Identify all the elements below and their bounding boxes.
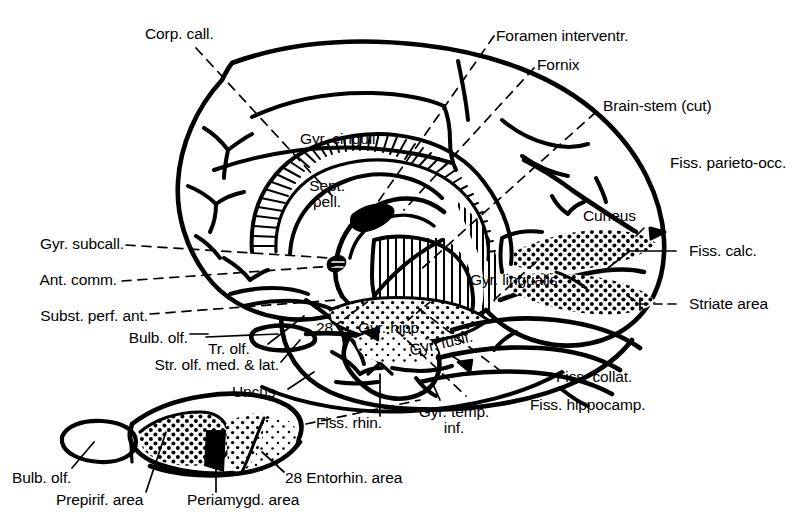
label-inset-bulb-olf: Bulb. olf. <box>12 470 71 486</box>
label-gyr-temp-inf: Gyr. temp. inf. <box>410 404 498 435</box>
label-fornix: Fornix <box>537 57 579 73</box>
label-corp-call: Corp. call. <box>145 26 214 42</box>
sulcus-frontal-branch-3 <box>196 236 220 258</box>
label-uncus: Uncus <box>232 384 275 400</box>
sulcus-superior-frontal <box>252 93 444 117</box>
label-gyr-temp-line1: Gyr. temp. <box>410 404 498 420</box>
label-brain-stem-cut: Brain-stem (cut) <box>603 98 712 114</box>
label-fiss-hippocamp: Fiss. hippocamp. <box>530 397 646 413</box>
label-gyr-hipp: Gyr. hipp. <box>358 320 423 336</box>
inset-periamygdaloid <box>204 430 226 472</box>
sulcus-frontal-branch-2 <box>188 186 244 232</box>
leader-bulb-olf-2 <box>206 334 278 337</box>
thalamus-diagonal-edge <box>374 240 442 296</box>
interthalamic-mark <box>327 255 347 272</box>
inset-bulb-olf <box>62 421 136 462</box>
inset-inner-divider <box>130 428 132 462</box>
label-fiss-calc: Fiss. calc. <box>689 243 757 259</box>
sulcus-frontal-branch-1 <box>204 128 252 178</box>
label-fiss-parieto-occ: Fiss. parieto-occ. <box>670 155 786 171</box>
foramen-interventriculare <box>350 203 395 232</box>
label-fiss-collat: Fiss. collat. <box>556 369 632 385</box>
label-foramen-interventr: Foramen interventr. <box>496 28 629 44</box>
label-str-olf-med-lat: Str. olf. med. & lat. <box>0 357 279 373</box>
label-inset-prepirif-area: Prepirif. area <box>56 492 143 508</box>
label-bulb-olf-main: Bulb. olf. <box>0 330 188 346</box>
label-inset-periamygd-area: Periamygd. area <box>187 492 299 508</box>
label-tr-olf: Tr. olf. <box>208 341 250 357</box>
label-gyr-cinguli: Gyr. cinguli <box>300 131 375 147</box>
sulcus-parietal-1 <box>502 120 588 147</box>
label-inset-entorhin-area: 28 Entorhin. area <box>285 470 402 486</box>
sulcus-occipital-branch-1 <box>552 196 584 214</box>
label-cuneus: Cuneus <box>583 208 636 224</box>
label-subst-perf-ant: Subst. perf. ant. <box>0 308 148 324</box>
sulcus-temporal-2 <box>336 382 378 384</box>
leader-ant-comm <box>122 266 334 281</box>
sulcus-central-marginal <box>458 61 468 120</box>
label-sept-pell-line2: pell. <box>301 194 353 210</box>
sulcus-occipital-branch-2 <box>596 178 606 202</box>
label-striate-area: Striate area <box>689 296 768 312</box>
label-gyr-temp-line2: inf. <box>410 420 498 436</box>
inset-olfactory-region <box>62 394 302 492</box>
leader-foramen <box>364 36 494 222</box>
label-sept-pell-line1: Sept. <box>301 178 353 194</box>
sulcus-rostral <box>230 288 308 294</box>
brain-diagram-svg <box>0 0 794 526</box>
label-sept-pell: Sept. pell. <box>301 178 353 209</box>
leader-gyr-subcall <box>126 245 330 258</box>
brain-anatomy-figure: Corp. call. Foramen interventr. Fornix B… <box>0 0 794 526</box>
label-gyr-subcall: Gyr. subcall. <box>0 236 124 252</box>
label-gyr-lingualis: Gyr. lingualis <box>470 272 557 288</box>
fissura-hippocampi <box>392 366 452 371</box>
label-area-28-main: 28 <box>316 320 333 336</box>
label-fiss-rhin: Fiss. rhin. <box>316 415 382 431</box>
label-ant-comm: Ant. comm. <box>0 272 117 288</box>
sulcus-subcallosal-region <box>224 258 268 280</box>
